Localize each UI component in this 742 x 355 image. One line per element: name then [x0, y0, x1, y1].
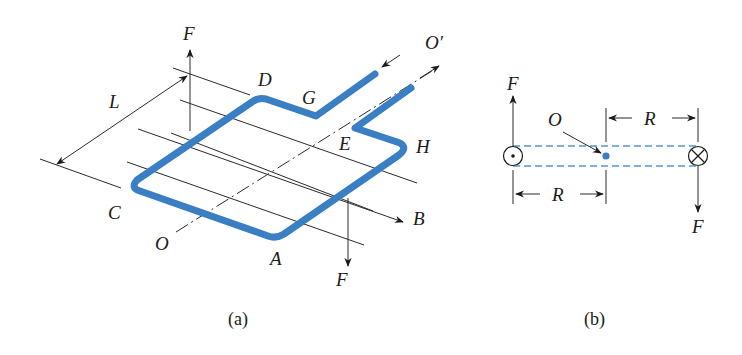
figure-canvas: F D G O′ L E H C O A B F (a) [0, 0, 742, 355]
caption-a: (a) [228, 309, 248, 330]
label-corner-e: E [338, 133, 351, 154]
label-corner-d: D [257, 69, 272, 90]
label-force-top: F [506, 73, 519, 94]
dimension-extension-line [173, 68, 250, 95]
label-radius-top: R [643, 108, 656, 129]
panel-a: F D G O′ L E H C O A B F (a) [40, 23, 444, 330]
label-corner-c: C [108, 202, 121, 223]
label-force-top: F [182, 23, 195, 44]
current-into-page-icon [689, 147, 708, 166]
caption-b: (b) [584, 309, 605, 330]
current-out-of-page-icon [504, 147, 523, 166]
label-radius-bottom: R [551, 184, 564, 205]
axis-current-arrow-in [382, 55, 400, 67]
label-corner-g: G [302, 87, 316, 108]
axis-current-arrow-out [420, 66, 439, 78]
label-corner-h: H [415, 136, 431, 157]
panel-b: F O R R F (b) [504, 73, 708, 330]
dimension-extension-line [40, 159, 121, 188]
label-force-bottom: F [335, 269, 348, 290]
label-corner-a: A [268, 248, 282, 269]
label-force-bottom: F [691, 216, 704, 237]
center-pointer-arrow [563, 132, 601, 153]
label-axis-o: O [155, 233, 169, 254]
label-axis-o-prime: O′ [425, 32, 444, 53]
label-length-l: L [108, 91, 120, 112]
rotation-center-dot [602, 152, 609, 159]
label-center-o: O [548, 109, 562, 130]
label-field-b: B [413, 208, 425, 229]
length-dimension-arrow [57, 76, 187, 164]
